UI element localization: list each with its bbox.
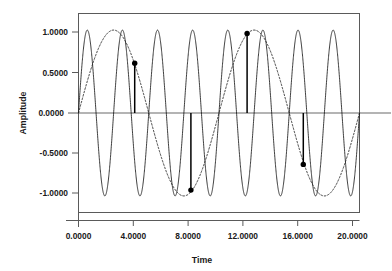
x-tick-label: 20.0000 <box>337 231 368 241</box>
y-tick-label: 0.5000 <box>42 68 68 78</box>
x-axis-title: Time <box>192 255 212 265</box>
y-tick-label: -0.5000 <box>40 148 69 158</box>
x-tick-label: 12.0000 <box>228 231 259 241</box>
sample-point-marker <box>244 31 249 36</box>
sample-point-marker <box>301 162 306 167</box>
x-tick-label: 16.0000 <box>283 231 314 241</box>
x-tick-label: 4.0000 <box>120 231 146 241</box>
sample-point-marker <box>132 61 137 66</box>
y-tick-label: 0.0000 <box>38 108 64 118</box>
y-tick-label: 1.0000 <box>42 27 68 37</box>
chart-figure: 1.0000 0.5000 0.0000 -0.5000 -1.0000 0.0… <box>0 0 392 271</box>
y-axis-title: Amplitude <box>18 91 28 134</box>
x-tick-label: 0.0000 <box>66 231 92 241</box>
y-tick-label: -1.0000 <box>40 188 69 198</box>
x-tick-label: 8.0000 <box>175 231 201 241</box>
sample-point-marker <box>188 187 193 192</box>
plot-svg: 1.0000 0.5000 0.0000 -0.5000 -1.0000 0.0… <box>0 0 392 271</box>
